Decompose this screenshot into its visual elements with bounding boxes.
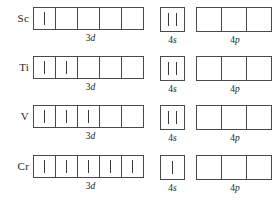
orbital-box[interactable] — [99, 56, 122, 79]
orbital-box[interactable] — [77, 56, 100, 79]
electron-spins — [122, 106, 143, 127]
subshell-block-d — [33, 155, 144, 178]
electron-spin-arrow — [168, 13, 169, 26]
orbital-box[interactable] — [33, 56, 56, 79]
orbital-box[interactable] — [33, 105, 56, 128]
orbital-box[interactable] — [221, 56, 247, 81]
orbital-box[interactable] — [77, 105, 100, 128]
orbital-box[interactable] — [246, 56, 272, 81]
orbital-box[interactable] — [246, 7, 272, 32]
subshell-letter: d — [91, 82, 96, 92]
subshell-letter: d — [91, 181, 96, 191]
subshell-letter: p — [235, 35, 240, 45]
orbital-box[interactable] — [246, 155, 272, 180]
subshell-label-s: 4s — [160, 35, 185, 46]
electron-spin-arrow — [44, 110, 45, 123]
subshell-label-d: 3d — [33, 82, 148, 93]
orbital-box[interactable] — [221, 155, 247, 180]
orbital-box[interactable] — [121, 56, 144, 79]
electron-spins — [78, 8, 99, 29]
electron-spins — [197, 57, 221, 80]
orbital-box[interactable] — [55, 56, 78, 79]
subshell-letter: p — [235, 133, 240, 143]
orbital-box[interactable] — [121, 155, 144, 178]
orbital-box[interactable] — [33, 155, 56, 178]
electron-spin-arrow — [132, 160, 133, 173]
electron-spin-arrow — [44, 61, 45, 74]
orbital-box[interactable] — [77, 7, 100, 30]
electron-spin-arrow — [176, 13, 177, 26]
electron-spins — [197, 8, 221, 31]
electron-spins — [78, 156, 99, 177]
subshell-letter: p — [235, 183, 240, 193]
subshell-block-p — [196, 105, 272, 130]
electron-spins — [247, 106, 271, 129]
orbital-box[interactable] — [121, 105, 144, 128]
electron-spin-arrow — [88, 160, 89, 173]
subshell-block-p — [196, 7, 272, 32]
electron-spins — [161, 57, 184, 80]
electron-spin-arrow — [168, 111, 169, 124]
electron-spins — [100, 8, 121, 29]
orbital-box[interactable] — [99, 105, 122, 128]
subshell-block-d — [33, 56, 144, 79]
orbital-box[interactable] — [55, 105, 78, 128]
orbital-box[interactable] — [160, 7, 185, 32]
electron-spins — [247, 57, 271, 80]
electron-spins — [56, 57, 77, 78]
orbital-box[interactable] — [196, 105, 222, 130]
electron-spins — [34, 57, 55, 78]
orbital-box[interactable] — [196, 7, 222, 32]
subshell-letter: s — [173, 133, 177, 143]
electron-spins — [197, 106, 221, 129]
subshell-letter: d — [91, 131, 96, 141]
element-symbol: V — [0, 109, 29, 123]
orbital-box[interactable] — [160, 56, 185, 81]
subshell-letter: s — [173, 183, 177, 193]
electron-spins — [78, 106, 99, 127]
orbital-box[interactable] — [196, 56, 222, 81]
electron-spins — [100, 106, 121, 127]
orbital-diagram: Sc3d4s4pTi3d4s4pV3d4s4pCr3d4s4p — [0, 0, 280, 206]
electron-spins — [247, 156, 271, 179]
orbital-box[interactable] — [160, 155, 185, 180]
element-row: Sc3d4s4p — [0, 0, 280, 49]
electron-spins — [222, 156, 246, 179]
orbital-box[interactable] — [160, 105, 185, 130]
subshell-label-s: 4s — [160, 133, 185, 144]
element-symbol: Ti — [0, 60, 29, 74]
electron-spins — [122, 8, 143, 29]
subshell-block-s — [160, 155, 185, 180]
orbital-box[interactable] — [99, 155, 122, 178]
electron-spins — [122, 156, 143, 177]
orbital-box[interactable] — [246, 105, 272, 130]
electron-spins — [100, 57, 121, 78]
electron-spin-arrow — [176, 62, 177, 75]
electron-spin-arrow — [168, 62, 169, 75]
subshell-letter: d — [91, 33, 96, 43]
element-row: Ti3d4s4p — [0, 49, 280, 98]
orbital-box[interactable] — [99, 7, 122, 30]
electron-spin-arrow — [88, 110, 89, 123]
subshell-block-p — [196, 155, 272, 180]
orbital-box[interactable] — [55, 7, 78, 30]
orbital-box[interactable] — [121, 7, 144, 30]
subshell-label-d: 3d — [33, 131, 148, 142]
electron-spin-arrow — [172, 161, 173, 174]
orbital-box[interactable] — [77, 155, 100, 178]
orbital-box[interactable] — [221, 105, 247, 130]
orbital-box[interactable] — [196, 155, 222, 180]
orbital-box[interactable] — [55, 155, 78, 178]
electron-spins — [34, 106, 55, 127]
orbital-box[interactable] — [33, 7, 56, 30]
orbital-box[interactable] — [221, 7, 247, 32]
subshell-label-s: 4s — [160, 84, 185, 95]
electron-spins — [197, 156, 221, 179]
electron-spins — [222, 8, 246, 31]
electron-spins — [161, 156, 184, 179]
subshell-label-d: 3d — [33, 181, 148, 192]
subshell-block-d — [33, 7, 144, 30]
electron-spins — [34, 8, 55, 29]
electron-spins — [78, 57, 99, 78]
subshell-block-d — [33, 105, 144, 128]
